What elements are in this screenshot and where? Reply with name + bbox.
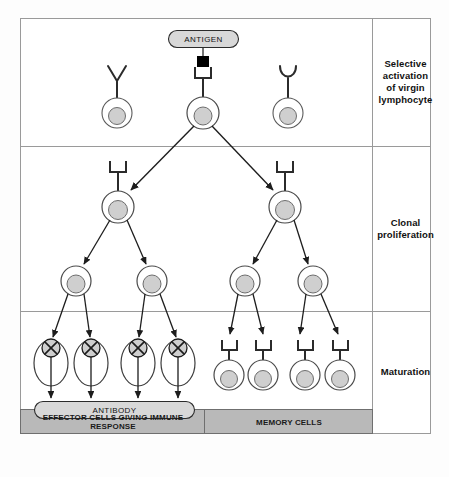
clone-gen2-a	[61, 266, 91, 296]
cell-nucleus	[236, 275, 254, 293]
cell-nucleus	[297, 371, 314, 388]
clone-gen2-d	[298, 266, 328, 296]
stage-label-clonal-proliferation: Clonal proliferation	[374, 147, 437, 311]
clonal-selection-diagram: ANTIGEN ANTIBODY Selective activation of…	[0, 0, 449, 477]
cell-nucleus	[67, 275, 85, 293]
cell-nucleus	[143, 275, 161, 293]
cell-nucleus	[109, 108, 126, 125]
cell-nucleus	[221, 371, 238, 388]
cell-nucleus	[109, 201, 128, 220]
cell-nucleus	[276, 201, 295, 220]
banner-label-effector-cells: EFFECTOR CELLS GIVING IMMUNE RESPONSE	[21, 410, 205, 434]
banner-label-memory-cells: MEMORY CELLS	[205, 410, 373, 434]
antigen-epitope-icon	[197, 56, 209, 67]
antigen-label: ANTIGEN	[168, 30, 239, 48]
cell-nucleus	[255, 371, 272, 388]
stage-label-maturation: Maturation	[374, 312, 437, 433]
clone-gen2-c	[230, 266, 260, 296]
cell-nucleus	[280, 108, 297, 125]
cell-nucleus	[304, 275, 322, 293]
clone-gen2-b	[137, 266, 167, 296]
stage-label-selective-activation: Selective activation of virgin lymphocyt…	[374, 18, 437, 146]
cell-nucleus	[332, 371, 349, 388]
cell-nucleus	[194, 107, 212, 125]
